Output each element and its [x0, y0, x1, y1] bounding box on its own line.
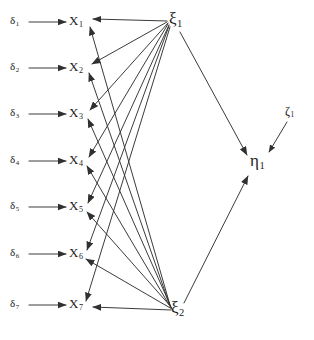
path-arrow-canvas: [0, 0, 314, 340]
node-label-delta1: δ1: [10, 15, 19, 26]
node-label-x2: X2: [69, 60, 83, 73]
node-label-x5: X5: [69, 199, 83, 212]
node-label-eta1: η1: [250, 152, 265, 169]
node-label-delta6: δ6: [10, 247, 19, 258]
node-label-x7: X7: [69, 297, 83, 310]
node-label-x6: X6: [69, 246, 83, 259]
node-label-delta3: δ3: [10, 107, 19, 118]
disturbance-arrow: [269, 122, 287, 152]
node-label-delta2: δ2: [10, 61, 19, 72]
node-label-delta5: δ5: [10, 200, 19, 211]
node-label-zeta1: ζ1: [285, 105, 294, 117]
node-label-delta4: δ4: [10, 154, 19, 165]
node-label-xi2: ξ2: [171, 299, 184, 316]
node-label-x1: X1: [69, 14, 83, 27]
node-label-x3: X3: [69, 106, 83, 119]
node-label-delta7: δ7: [10, 298, 19, 309]
node-label-xi1: ξ1: [169, 10, 182, 27]
structural-arrows: [180, 32, 248, 303]
node-label-x4: X4: [69, 153, 83, 166]
xi2-loading-arrows: [86, 27, 172, 310]
sem-path-diagram: δ1 δ2 δ3 δ4 δ5 δ6 δ7 X1 X2 X3 X4 X5 X6 X…: [0, 0, 314, 340]
error-to-indicator-arrows: [29, 22, 66, 305]
